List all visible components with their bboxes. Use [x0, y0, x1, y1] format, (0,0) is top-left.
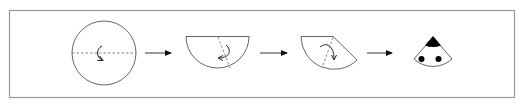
semicircle-outline	[186, 37, 249, 69]
left-eye	[419, 56, 425, 62]
fan-outline	[301, 37, 357, 70]
curved-right-arrow-icon	[320, 45, 334, 59]
step-1-circle	[72, 21, 136, 85]
step-3-fan	[301, 37, 357, 70]
fold-line-diagonal	[322, 38, 333, 69]
step-4-sector-face	[414, 36, 452, 66]
diagram-frame	[10, 11, 515, 98]
curved-left-arrow-icon	[219, 45, 229, 58]
step-2-semicircle	[186, 37, 249, 69]
right-eye	[436, 56, 442, 62]
fold-line-diagonal	[218, 37, 230, 68]
folding-diagram	[0, 0, 521, 104]
black-tip	[425, 36, 441, 47]
